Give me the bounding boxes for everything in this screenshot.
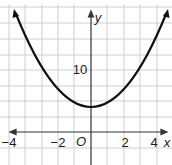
y-tick-label-10: 10 (73, 62, 87, 77)
x-axis (10, 130, 167, 135)
x-tick-label-neg4: −4 (2, 135, 17, 150)
x-tick-label-4: 4 (150, 135, 157, 150)
x-axis-label: x (163, 135, 171, 150)
x-tick-label-neg2: −2 (51, 135, 66, 150)
x-tick-label-2: 2 (121, 135, 128, 150)
origin-label: O (76, 134, 86, 149)
parabola-graph: −4 −2 O 2 4 x 10 y (0, 0, 172, 165)
y-axis (89, 11, 94, 165)
